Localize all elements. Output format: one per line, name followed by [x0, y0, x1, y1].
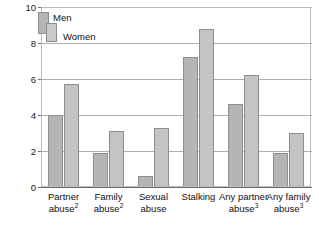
legend-label-men: Men — [53, 13, 71, 23]
footnote-marker: 3 — [300, 201, 304, 208]
bar-group — [221, 7, 266, 187]
x-tick-label-line1: Any family — [260, 191, 317, 203]
footnote-marker: 3 — [255, 201, 259, 208]
y-tick-label: 0 — [6, 183, 36, 193]
x-axis: Partnerabuse2Familyabuse2SexualabuseStal… — [41, 191, 311, 231]
y-tick-label: 8 — [6, 39, 36, 49]
footnote-marker: 2 — [120, 201, 124, 208]
footnote-marker: 2 — [75, 201, 79, 208]
x-tick-label: Any familyabuse3 — [260, 191, 317, 214]
bar-women — [244, 75, 259, 187]
bar-women — [199, 29, 214, 187]
y-tick-mark — [38, 187, 42, 188]
y-tick-label: 6 — [6, 75, 36, 85]
y-tick-label: 10 — [6, 3, 36, 13]
legend-swatch-women-icon — [46, 23, 57, 42]
bar-men — [183, 57, 198, 187]
bar-women — [289, 133, 304, 187]
bar-women — [109, 131, 124, 187]
bar-men — [138, 176, 153, 187]
y-axis: 0246810 — [0, 7, 36, 187]
x-tick-label-line2: abuse3 — [260, 203, 317, 215]
bar-group — [266, 7, 311, 187]
bar-women — [154, 128, 169, 187]
legend-item-women: Women — [46, 23, 96, 42]
legend-label-women: Women — [63, 32, 96, 42]
bar-men — [273, 153, 288, 187]
bar-chart: 0246810 Partnerabuse2Familyabuse2Sexuala… — [0, 0, 319, 231]
legend: Men Women — [38, 12, 148, 42]
bar-men — [48, 115, 63, 187]
bar-women — [64, 84, 79, 187]
bar-men — [228, 104, 243, 187]
bar-group — [176, 7, 221, 187]
x-tick-label-line2: abuse — [125, 203, 182, 215]
y-tick-label: 2 — [6, 147, 36, 157]
bar-men — [93, 153, 108, 187]
y-tick-label: 4 — [6, 111, 36, 121]
